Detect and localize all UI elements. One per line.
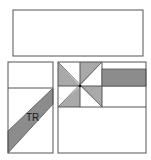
band-label: TR bbox=[26, 112, 39, 123]
top-box bbox=[13, 10, 143, 56]
pinwheel-center-dot bbox=[79, 85, 82, 88]
right-panel bbox=[58, 62, 146, 153]
left-panel: TR bbox=[8, 62, 53, 153]
shaded-bar bbox=[102, 69, 146, 86]
diagram-canvas: TR bbox=[0, 0, 151, 160]
